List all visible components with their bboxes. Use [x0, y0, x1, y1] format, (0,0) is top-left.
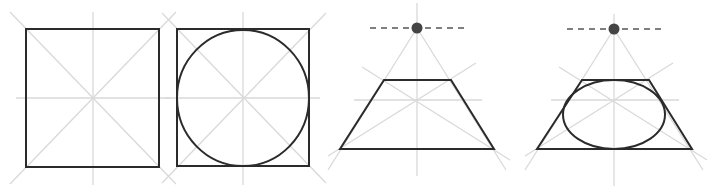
diagonal-guide [525, 63, 673, 156]
vanishing-point [609, 24, 620, 35]
diagonal-guide [328, 63, 476, 156]
figure-perspective-circle [525, 14, 707, 186]
figure-perspective-square [328, 3, 510, 176]
figure-circle-in-square [162, 12, 326, 185]
perspective-diagram [0, 0, 717, 192]
figure-square [10, 12, 176, 185]
vanishing-point [412, 23, 423, 34]
